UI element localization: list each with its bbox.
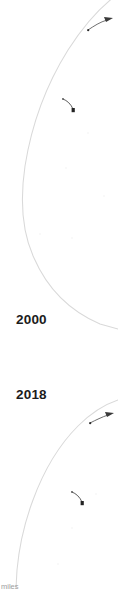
map-panel-2000 bbox=[0, 0, 118, 338]
clipped-caption: miles bbox=[1, 584, 53, 594]
figure-strip: 2000 2018 miles bbox=[0, 0, 118, 594]
shoreline-arc-2018 bbox=[0, 398, 118, 594]
panel-year-label-2018: 2018 bbox=[16, 388, 47, 402]
map-panel-2018 bbox=[0, 398, 118, 594]
panel-year-label-2000: 2000 bbox=[16, 313, 47, 327]
shoreline-arc-2000 bbox=[0, 0, 118, 338]
clipped-caption-text: miles bbox=[1, 584, 53, 591]
